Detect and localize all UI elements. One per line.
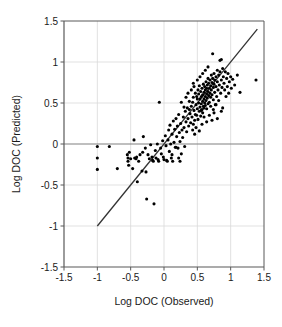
data-point (216, 69, 219, 72)
y-tick-label: 0 (52, 139, 58, 150)
data-point (193, 133, 196, 136)
x-tick-label: 0.5 (190, 272, 204, 283)
data-point (217, 74, 220, 77)
data-point (198, 75, 201, 78)
data-point (222, 75, 225, 78)
data-point (220, 86, 223, 89)
x-tick-label: 0 (161, 272, 167, 283)
y-axis-title: Log DOC (Predicted) (10, 95, 22, 193)
data-point (195, 95, 198, 98)
x-tick-label: -1 (93, 272, 102, 283)
data-point (219, 92, 222, 95)
data-point (170, 133, 173, 136)
data-point (220, 110, 223, 113)
data-point (168, 124, 171, 127)
data-point (226, 85, 229, 88)
data-point (126, 153, 129, 156)
data-point (208, 114, 211, 117)
data-point (214, 103, 217, 106)
data-point (221, 106, 224, 109)
data-point (177, 113, 180, 116)
data-point (137, 160, 140, 163)
data-point (229, 75, 232, 78)
data-point (197, 92, 200, 95)
data-point (190, 105, 193, 108)
data-point (126, 160, 129, 163)
data-point (132, 138, 135, 141)
data-point (214, 85, 217, 88)
data-point (166, 160, 169, 163)
x-tick-label: -0.5 (122, 272, 140, 283)
data-point (164, 134, 167, 137)
data-point (161, 139, 164, 142)
data-point (214, 75, 217, 78)
data-point (116, 167, 119, 170)
data-point (167, 129, 170, 132)
data-point (204, 80, 207, 83)
data-point (197, 101, 200, 104)
data-point (200, 109, 203, 112)
data-point (212, 83, 215, 86)
x-tick-label: 1.5 (257, 272, 271, 283)
data-point (188, 100, 191, 103)
data-point (174, 117, 177, 120)
data-point (206, 65, 209, 68)
data-point (188, 112, 191, 115)
data-point (185, 130, 188, 133)
data-point (210, 74, 213, 77)
data-point (175, 135, 178, 138)
data-point (191, 129, 194, 132)
data-point (204, 69, 207, 72)
data-point (180, 152, 183, 155)
data-point (221, 67, 224, 70)
data-point (127, 164, 130, 167)
data-point (200, 123, 203, 126)
data-point (164, 144, 167, 147)
data-point (192, 85, 195, 88)
data-point (159, 147, 162, 150)
data-point (192, 82, 195, 85)
data-point (213, 78, 216, 81)
data-point (182, 106, 185, 109)
data-point (170, 153, 173, 156)
data-point (212, 111, 215, 114)
data-point (223, 88, 226, 91)
data-point (191, 101, 194, 104)
data-point (183, 145, 186, 148)
data-point (213, 91, 216, 94)
data-point (148, 157, 151, 160)
data-point (150, 156, 153, 159)
data-point (131, 167, 134, 170)
data-point (212, 86, 215, 89)
data-point (206, 102, 209, 105)
data-point (209, 84, 212, 87)
data-point (196, 118, 199, 121)
data-point (236, 74, 239, 77)
data-point (218, 70, 221, 73)
data-point (171, 160, 174, 163)
data-point (190, 88, 193, 91)
scatter-plot-figure: -1.5-1-0.500.511.5-1.5-1-0.500.511.5Log … (0, 0, 282, 327)
data-point (205, 120, 208, 123)
data-point (196, 107, 199, 110)
data-point (157, 160, 160, 163)
data-point (196, 78, 199, 81)
data-point (180, 129, 183, 132)
data-point (194, 126, 197, 129)
data-point (209, 105, 212, 108)
data-point (188, 108, 191, 111)
x-axis-title: Log DOC (Observed) (114, 295, 213, 307)
data-point (212, 98, 215, 101)
data-point (160, 152, 163, 155)
data-point (184, 96, 187, 99)
data-point (202, 115, 205, 118)
data-point (231, 78, 234, 81)
data-point (210, 93, 213, 96)
data-point (96, 168, 99, 171)
chart-canvas: -1.5-1-0.500.511.5-1.5-1-0.500.511.5Log … (0, 0, 282, 327)
data-point (192, 109, 195, 112)
data-point (144, 147, 147, 150)
data-point (233, 83, 236, 86)
data-point (140, 170, 143, 173)
data-point (212, 108, 215, 111)
